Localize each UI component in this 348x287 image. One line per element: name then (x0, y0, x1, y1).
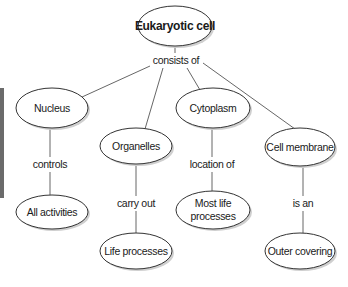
outer-covering-label: Outer covering (268, 245, 333, 257)
concept-map: Eukaryotic cell Nucleus Organelles Cytop… (0, 0, 348, 287)
link-location-of: location of (190, 158, 235, 170)
link-consists-of: consists of (153, 54, 200, 66)
link-carry-out: carry out (117, 197, 156, 209)
most-life-label-line1: Most life (195, 197, 232, 209)
connectors (50, 45, 303, 233)
nucleus-label: Nucleus (34, 102, 70, 114)
life-processes-label: Life processes (104, 245, 168, 257)
cytoplasm-label: Cytoplasm (190, 102, 237, 114)
link-controls: controls (33, 158, 67, 170)
cell-membrane-label: Cell membrane (266, 141, 334, 153)
all-activities-label: All activities (27, 206, 78, 218)
root-label: Eukaryotic cell (135, 19, 215, 33)
organelles-label: Organelles (112, 140, 160, 152)
most-life-label-line2: processes (190, 210, 235, 222)
link-is-an: is an (293, 197, 314, 209)
